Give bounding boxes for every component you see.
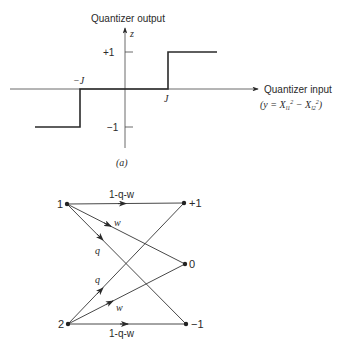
node-label-1: 1 [57,198,63,210]
node-dot [182,201,186,205]
label-pos-j: J [164,93,169,104]
edge-1-to-0 [67,204,185,264]
edge-label: q [95,245,100,256]
node-dot [184,322,188,326]
edge-label: 1-q-w [109,189,135,200]
arrow-icon [97,288,103,294]
edge-label: 1-q-w [109,328,135,339]
arrow-icon [106,301,113,305]
node-dot [65,202,69,206]
node-label-minus1: −1 [191,318,204,330]
edge-2-to-plus1 [68,203,184,324]
quantizer-curve [35,52,217,127]
label-neg-j: −J [73,75,85,86]
arrow-icon [97,234,103,240]
label-minus-one: −1 [107,122,119,133]
transition-diagram: 1-q-w w q q w 1-q-w 1 2 +1 0 −1 [57,189,204,339]
arrow-icon [104,223,111,227]
y-axis-title: Quantizer output [91,13,165,24]
node-label-plus1: +1 [189,197,202,209]
node-label-0: 0 [189,258,195,270]
node-label-2: 2 [58,318,64,330]
caption-a: (a) [116,157,128,169]
figure-canvas: Quantizer output z Quantizer input (y = … [0,0,348,340]
edge-label: w [116,302,123,313]
node-dot [66,322,70,326]
edge-label: w [114,217,121,228]
edge-label: q [95,274,100,285]
node-dot [183,262,187,266]
quantizer-plot: Quantizer output z Quantizer input (y = … [10,13,332,169]
label-plus-one: +1 [103,47,115,58]
x-axis-title: Quantizer input [264,84,332,95]
y-axis-var: z [129,28,134,39]
x-axis-formula: (y = Xl12 − Xl22) [260,99,323,111]
edge-2-to-0 [68,264,185,324]
